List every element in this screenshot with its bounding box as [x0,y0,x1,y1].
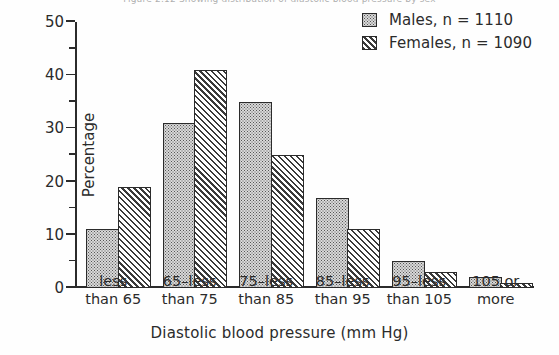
plot-area: 01020304050 Percentage [75,22,534,288]
x-category-label-line: than 65 [75,290,152,308]
y-tick-label: 0 [54,279,64,297]
y-tick-label: 50 [45,13,64,31]
y-tick-minor [69,207,75,209]
x-axis-title: Diastolic blood pressure (mm Hg) [0,324,559,342]
x-category-label-line: than 95 [305,290,382,308]
x-category-label-line: than 75 [152,290,229,308]
bar-females [194,70,227,288]
y-tick-minor [69,153,75,155]
x-category-label: 105 ormore [458,272,535,308]
y-tick-major [66,286,75,288]
x-category-label-line: less [75,272,152,290]
y-tick-label: 10 [45,226,64,244]
x-category-label-line: than 85 [228,290,305,308]
bar-males [163,123,196,288]
x-category-label-line: 75–less [228,272,305,290]
bar-group [163,70,228,288]
x-category-label: lessthan 65 [75,272,152,308]
y-tick-label: 30 [45,119,64,137]
x-category-label-line: 105 or [458,272,535,290]
y-tick-major [66,233,75,235]
y-tick-major [66,180,75,182]
x-category-label-line: 65–less [152,272,229,290]
y-tick-label: 40 [45,66,64,84]
y-axis-title: Percentage [80,113,98,197]
bar-males [239,102,272,288]
y-tick-major [66,20,75,22]
x-category-label-line: more [458,290,535,308]
y-tick-minor [69,100,75,102]
figure-container: Figure 2.12 Showing distribution of dias… [0,0,559,355]
y-tick-minor [69,47,75,49]
y-tick-label: 20 [45,173,64,191]
x-category-label: 75–lessthan 85 [228,272,305,308]
y-tick-minor [69,260,75,262]
x-category-label-line: 85–less [305,272,382,290]
x-category-label: 85–lessthan 95 [305,272,382,308]
y-tick-major [66,127,75,129]
y-axis-line [75,22,77,288]
x-category-label-line: than 105 [381,290,458,308]
figure-caption: Figure 2.12 Showing distribution of dias… [0,0,559,4]
bar-group [239,102,304,288]
x-category-label: 95–lessthan 105 [381,272,458,308]
x-category-label: 65–lessthan 75 [152,272,229,308]
x-category-label-line: 95–less [381,272,458,290]
bar-females [271,155,304,288]
y-tick-major [66,74,75,76]
